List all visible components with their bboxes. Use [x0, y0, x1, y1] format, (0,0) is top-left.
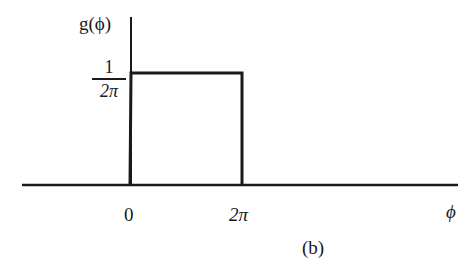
pulse-curve [130, 73, 242, 185]
x-tick-zero: 0 [124, 205, 134, 224]
y-tick-numerator: 1 [92, 58, 126, 78]
x-axis-label: ϕ [446, 202, 456, 221]
y-tick-label: 1 2π [92, 58, 126, 100]
figure: g(ϕ) 1 2π 0 2π ϕ (b) [0, 0, 473, 277]
y-axis-label: g(ϕ) [79, 14, 111, 33]
figure-caption: (b) [302, 238, 324, 257]
x-tick-two-pi: 2π [229, 205, 248, 224]
y-tick-denominator: 2π [92, 80, 126, 100]
plot-area [0, 0, 473, 277]
